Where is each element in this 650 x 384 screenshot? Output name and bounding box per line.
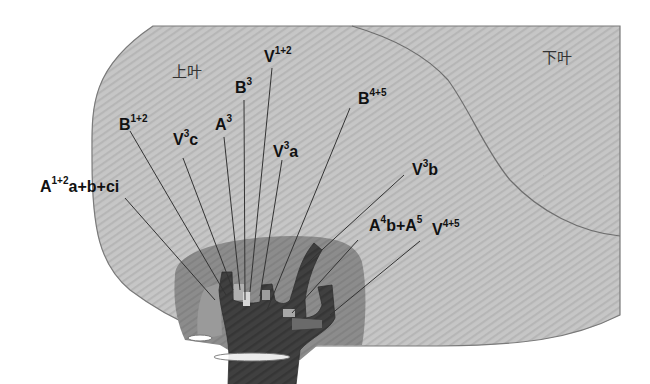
branch-b3 [243,292,250,306]
label-a12abci: A1+2a+b+ci [40,179,119,195]
branch-b45 [283,309,295,317]
trunk-base-ring [214,353,290,361]
label-v3c: V3c [173,132,198,148]
label-v12: V1+2 [264,49,292,65]
label-b3: B3 [235,80,252,96]
vessel-ring-left [188,335,212,341]
label-a3: A3 [215,117,232,133]
branch-v45 [292,318,322,330]
label-b12: B1+2 [119,117,148,133]
label-b45: B4+5 [358,91,387,107]
label-v3b: V3b [412,162,438,178]
label-v45: V4+5 [432,222,460,238]
upper-lobe-label: 上叶 [172,60,202,81]
label-a4b-a5: A4b+A5 [369,218,422,234]
label-v3a: V3a [273,144,298,160]
lower-lobe-label: 下叶 [542,46,572,67]
branch-a3 [234,284,244,300]
branch-v3a [262,290,270,300]
